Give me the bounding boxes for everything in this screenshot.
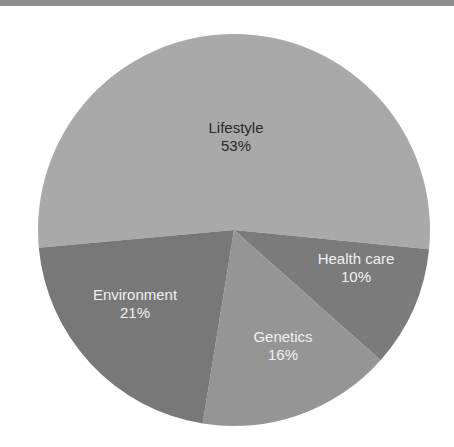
slice-label-environment: Environment 21%	[93, 286, 177, 322]
pie-chart	[0, 0, 454, 447]
slice-label-genetics: Genetics 16%	[253, 328, 312, 364]
pie-slice-environment	[39, 230, 234, 423]
slice-label-health-care: Health care 10%	[318, 250, 395, 286]
slice-label-lifestyle: Lifestyle 53%	[208, 119, 263, 155]
